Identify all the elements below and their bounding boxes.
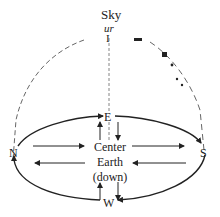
sky-label: Sky (101, 9, 121, 21)
earth-label: Earth (86, 155, 134, 170)
east-label: E (104, 111, 111, 123)
center-label: Center (86, 140, 134, 155)
center-earth-label: Center Earth (down) (86, 140, 134, 185)
arc-mark-square (162, 52, 167, 57)
arc-mark-dash (134, 38, 142, 41)
arc-mark-dot-2 (176, 78, 178, 80)
arc-mark-dot-3 (181, 84, 183, 86)
arc-mark-dot-1 (171, 64, 174, 67)
horizon-arc-east-south (115, 116, 201, 143)
dome-arc-left (13, 40, 84, 160)
zenith-mark: I (106, 32, 110, 44)
down-label: (down) (86, 170, 134, 185)
north-label: N (9, 147, 18, 159)
south-label: S (200, 147, 207, 159)
west-label: W (103, 197, 114, 209)
dome-arc-right (150, 42, 204, 150)
